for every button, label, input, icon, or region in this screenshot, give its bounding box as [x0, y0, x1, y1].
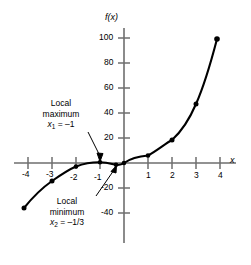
- figure-canvas: f(x) x 100 80 60 40 20 -20 -40 -4 -3 -2 …: [0, 0, 251, 265]
- data-point: [74, 164, 79, 169]
- y-tick-label-20: 20: [104, 133, 113, 143]
- data-point: [122, 161, 127, 166]
- y-tick-label-60: 60: [104, 83, 113, 93]
- data-point: [22, 206, 27, 211]
- data-point: [146, 153, 151, 158]
- y-axis-label: f(x): [105, 12, 118, 22]
- y-tick-label-80: 80: [104, 58, 113, 68]
- local-maximum-line3: x1 = –1: [30, 119, 92, 130]
- local-max-arrowhead: [97, 153, 103, 162]
- local-maximum-sub: 1: [52, 123, 56, 130]
- local-min-arrowhead: [111, 166, 117, 174]
- data-point: [194, 102, 199, 107]
- data-point: [214, 36, 220, 42]
- local-minimum-eq: = –1/3: [58, 217, 84, 227]
- local-maximum-line1: Local: [30, 98, 92, 109]
- y-tick-label-neg40: -40: [101, 208, 113, 218]
- y-tick-label-100: 100: [99, 33, 113, 43]
- local-minimum-line1: Local: [36, 196, 98, 207]
- x-tick-label-neg1: -1: [94, 173, 102, 183]
- x-tick-label-neg3: -3: [46, 170, 54, 180]
- x-tick-label-neg4: -4: [22, 170, 30, 180]
- local-minimum-line3: x2 = –1/3: [36, 217, 98, 228]
- local-maximum-annotation: Local maximum x1 = –1: [30, 98, 92, 130]
- local-minimum-line2: minimum: [36, 207, 98, 218]
- x-tick-label-neg2: -2: [70, 173, 78, 183]
- x-tick-label-2: 2: [170, 171, 175, 181]
- local-maximum-line2: maximum: [30, 109, 92, 120]
- y-tick-label-neg20: -20: [101, 183, 113, 193]
- data-point: [170, 138, 175, 143]
- local-minimum-annotation: Local minimum x2 = –1/3: [36, 196, 98, 228]
- local-maximum-eq: = –1: [55, 119, 74, 129]
- local-minimum-sub: 2: [54, 221, 58, 228]
- x-tick-label-1: 1: [146, 171, 151, 181]
- x-tick-label-4: 4: [218, 171, 223, 181]
- y-tick-label-40: 40: [104, 108, 113, 118]
- x-axis-label: x: [230, 155, 235, 165]
- local-max-leader-line: [88, 132, 100, 156]
- x-tick-label-3: 3: [194, 171, 199, 181]
